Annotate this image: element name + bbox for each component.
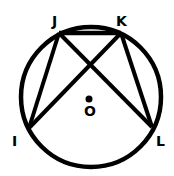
- label-l: L: [156, 133, 165, 149]
- center-point: [86, 96, 93, 103]
- geometry-diagram: J K I L O: [0, 0, 174, 176]
- label-o: O: [84, 103, 96, 119]
- label-k: K: [116, 13, 128, 29]
- label-j: J: [51, 13, 57, 29]
- label-i: I: [12, 133, 17, 149]
